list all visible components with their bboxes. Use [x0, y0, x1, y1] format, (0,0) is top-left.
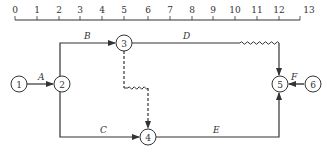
activity-label-e: E [212, 125, 220, 135]
tick-label-2: 2 [56, 5, 62, 15]
tick-label-5: 5 [121, 5, 127, 15]
time-scale: 0 1 2 3 4 5 6 7 8 9 10 11 12 13 [12, 5, 315, 20]
tick-label-9: 9 [210, 5, 216, 15]
node-5: 5 [272, 76, 288, 92]
activity-f: F [289, 72, 304, 84]
node-label-6: 6 [310, 80, 316, 90]
activity-a: A [27, 72, 53, 84]
activity-b: B [60, 31, 115, 76]
node-label-1: 1 [16, 80, 22, 90]
node-label-3: 3 [121, 39, 127, 49]
activity-label-b: B [83, 31, 91, 41]
tick-label-13: 13 [303, 5, 315, 15]
node-label-5: 5 [277, 80, 283, 90]
node-3: 3 [116, 35, 132, 51]
tick-label-8: 8 [189, 5, 195, 15]
tick-label-6: 6 [145, 5, 151, 15]
free-float-wave-d [240, 42, 279, 45]
tick-label-10: 10 [229, 5, 241, 15]
activity-label-c: C [100, 125, 107, 135]
node-2: 2 [54, 76, 70, 92]
activity-label-d: D [182, 31, 190, 41]
tick-label-7: 7 [167, 5, 173, 15]
free-float-wave-dummy [128, 87, 148, 90]
tick-label-3: 3 [77, 5, 83, 15]
tick-label-1: 1 [34, 5, 40, 15]
node-label-4: 4 [145, 133, 151, 143]
node-4: 4 [140, 129, 156, 145]
activity-c: C [60, 92, 139, 137]
tick-label-12: 12 [273, 5, 284, 15]
activity-d: D [132, 31, 279, 75]
tick-label-11: 11 [251, 5, 262, 15]
activity-label-f: F [290, 72, 298, 82]
node-label-2: 2 [59, 80, 65, 90]
activity-label-a: A [37, 72, 45, 82]
tick-label-0: 0 [12, 5, 18, 15]
node-6: 6 [305, 76, 321, 92]
network-diagram: 0 1 2 3 4 5 6 7 8 9 10 11 12 13 A B C D [0, 0, 327, 159]
activity-e: E [156, 93, 279, 137]
tick-label-4: 4 [99, 5, 105, 15]
node-1: 1 [11, 76, 27, 92]
dummy-activity [124, 51, 148, 128]
